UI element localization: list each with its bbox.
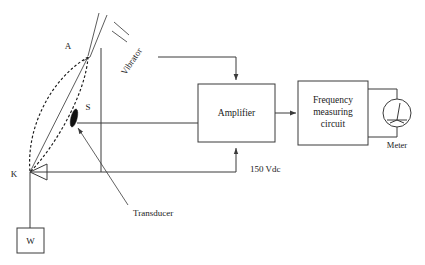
label-vibrator: Vibrator — [119, 46, 144, 76]
frequency-circuit-label-line3: circuit — [321, 119, 346, 129]
wire-dc-supply-rail — [30, 148, 236, 172]
label-supply-voltage: 150 Vdc — [250, 164, 281, 174]
diagram-canvas: Amplifier Frequency measuring circuit A … — [0, 0, 425, 265]
meter-gauge-body — [383, 99, 411, 127]
transducer-element — [69, 108, 79, 127]
label-transducer: Transducer — [133, 208, 173, 218]
label-meter: Meter — [387, 140, 407, 150]
label-point-k: K — [11, 169, 18, 179]
vibrator-assembly — [83, 13, 129, 61]
string-rest-position — [30, 57, 88, 172]
vibration-motion-line-2 — [112, 31, 127, 42]
frequency-circuit-label-line2: measuring — [313, 107, 353, 117]
vibrator-prong-right — [90, 15, 107, 57]
diagram-svg: Amplifier Frequency measuring circuit A … — [0, 0, 425, 265]
label-point-a: A — [65, 41, 72, 51]
wire-vibrator-drive — [158, 57, 236, 80]
label-point-s: S — [85, 102, 90, 112]
frequency-circuit-label-line1: Frequency — [313, 95, 353, 105]
amplifier-label: Amplifier — [218, 108, 256, 118]
label-weight: W — [26, 236, 35, 246]
vibration-motion-line-1 — [114, 22, 129, 35]
transducer-leader-line — [78, 128, 128, 205]
